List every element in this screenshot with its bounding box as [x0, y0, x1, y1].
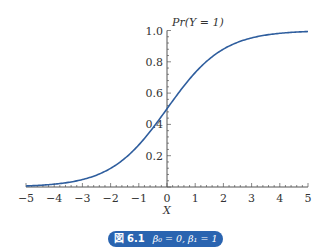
figure-caption: 図 6.1 β₀ = 0, β₁ = 1 [108, 231, 223, 247]
y-tick-label: 0.6 [146, 87, 164, 100]
tick-labels: −5−4−3−2−10123450.20.40.60.81.0 [18, 25, 312, 206]
x-tick-label: −5 [18, 192, 34, 205]
y-tick-label: 0.8 [146, 56, 164, 69]
x-tick-label: −2 [102, 192, 118, 205]
x-tick-label: 1 [192, 192, 199, 205]
x-axis-title: X [162, 204, 172, 217]
y-tick-label: 1.0 [146, 25, 164, 38]
x-tick-label: −1 [131, 192, 147, 205]
figure-label: 図 6.1 [114, 231, 145, 247]
x-tick-label: −3 [74, 192, 90, 205]
y-axis-title: Pr(Y = 1) [171, 16, 224, 29]
logistic-chart: −5−4−3−2−10123450.20.40.60.81.0 Pr(Y = 1… [0, 0, 329, 252]
x-tick-label: 3 [248, 192, 255, 205]
x-tick-label: 4 [276, 192, 283, 205]
x-tick-label: 2 [220, 192, 227, 205]
figure-formula: β₀ = 0, β₁ = 1 [153, 231, 218, 247]
y-tick-label: 0.2 [146, 150, 164, 163]
x-tick-label: −4 [46, 192, 62, 205]
x-tick-label: 5 [305, 192, 312, 205]
